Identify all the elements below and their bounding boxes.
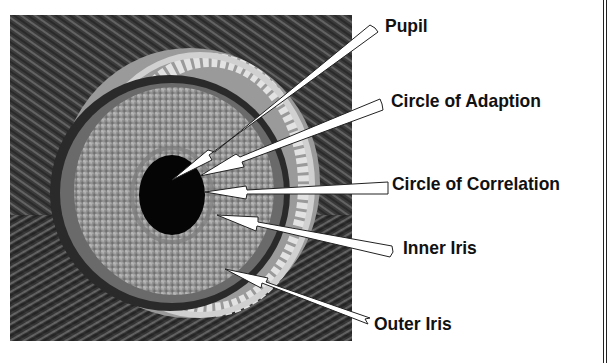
label-circle-of-correlation: Circle of Correlation bbox=[392, 173, 560, 195]
eye-photograph bbox=[10, 15, 352, 341]
label-outer-iris: Outer Iris bbox=[374, 313, 452, 335]
label-inner-iris: Inner Iris bbox=[403, 237, 477, 259]
label-circle-of-adaption: Circle of Adaption bbox=[391, 90, 541, 112]
right-border-line bbox=[603, 0, 604, 363]
label-pupil: Pupil bbox=[385, 15, 428, 37]
right-border-line-inner bbox=[606, 0, 607, 363]
